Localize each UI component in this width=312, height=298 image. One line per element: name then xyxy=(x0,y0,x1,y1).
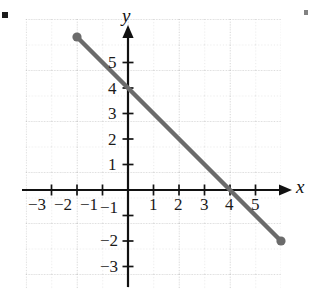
y-tick-label-neg2: −2 xyxy=(100,232,118,249)
x-tick-label-neg1: −1 xyxy=(80,196,98,213)
x-tick-label-2: 2 xyxy=(174,196,183,213)
grid-layer xyxy=(26,19,281,289)
y-tick-label-neg1: −1 xyxy=(100,199,118,216)
y-tick-label-3: 3 xyxy=(108,105,117,122)
y-tick-label-neg3: −3 xyxy=(100,258,118,275)
endpoint-marker-left xyxy=(72,32,81,41)
y-tick-label-5: 5 xyxy=(108,54,117,71)
x-tick-label-3: 3 xyxy=(200,196,209,213)
x-tick-label-5: 5 xyxy=(251,196,260,213)
x-tick-label-neg2: −2 xyxy=(54,196,72,213)
x-axis-label: x xyxy=(296,177,304,196)
x-tick-label-1: 1 xyxy=(149,196,158,213)
y-tick-label-1: 1 xyxy=(108,156,117,173)
coordinate-plot xyxy=(0,0,312,298)
x-tick-label-neg3: −3 xyxy=(28,196,46,213)
figure-canvas: −3 −2 −1 1 2 3 4 5 5 4 3 2 1 −1 −2 −3 y … xyxy=(0,0,312,298)
x-tick-label-4: 4 xyxy=(225,196,234,213)
endpoint-marker-right xyxy=(276,236,285,245)
x-axis-arrowhead xyxy=(279,184,292,195)
y-tick-label-4: 4 xyxy=(108,80,117,97)
y-axis-label: y xyxy=(122,6,130,25)
y-tick-label-2: 2 xyxy=(108,131,117,148)
